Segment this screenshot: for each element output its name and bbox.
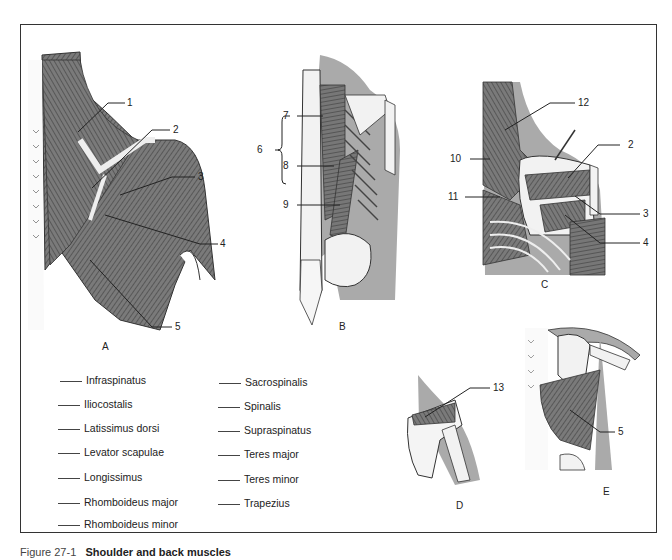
answer-blank[interactable] [58, 525, 80, 526]
term-item: Latissimus dorsi [58, 422, 159, 434]
callout-c-12: 12 [578, 97, 589, 108]
callout-b-9: 9 [283, 199, 289, 210]
caption-title: Shoulder and back muscles [85, 546, 231, 558]
panel-d-illustration [407, 375, 490, 485]
answer-blank[interactable] [58, 453, 80, 454]
callout-b-6: 6 [257, 144, 263, 155]
answer-blank[interactable] [218, 407, 240, 408]
callout-a-1: 1 [127, 97, 133, 108]
panel-label-e: E [603, 486, 610, 497]
term-item: Teres minor [218, 473, 299, 485]
callout-a-4: 4 [220, 238, 226, 249]
answer-blank[interactable] [218, 480, 240, 481]
answer-blank[interactable] [218, 455, 240, 456]
panel-label-b: B [339, 321, 346, 332]
panel-b-illustration [275, 55, 400, 325]
term-item: Supraspinatus [218, 424, 311, 436]
term-item: Longissimus [58, 471, 142, 483]
callout-c-3: 3 [643, 208, 649, 219]
callout-a-2: 2 [173, 124, 179, 135]
term-item: Trapezius [218, 497, 290, 509]
answer-blank[interactable] [218, 431, 240, 432]
answer-blank[interactable] [219, 383, 241, 384]
answer-blank[interactable] [58, 429, 80, 430]
term-item: Levator scapulae [58, 446, 164, 458]
caption-prefix: Figure 27-1 [20, 546, 76, 558]
term-item: Infraspinatus [60, 374, 146, 386]
term-item: Spinalis [218, 400, 281, 412]
figure-caption: Figure 27-1 Shoulder and back muscles [20, 546, 231, 558]
panel-label-d: D [456, 500, 463, 511]
answer-blank[interactable] [218, 504, 240, 505]
answer-blank[interactable] [58, 503, 80, 504]
callout-c-2: 2 [628, 139, 634, 150]
callout-b-8: 8 [283, 160, 289, 171]
callout-a-3: 3 [198, 171, 204, 182]
answer-blank[interactable] [58, 478, 80, 479]
panel-e-illustration [525, 328, 640, 470]
panel-label-c: C [541, 279, 548, 290]
answer-blank[interactable] [58, 405, 80, 406]
term-item: Rhomboideus major [58, 496, 178, 508]
answer-blank[interactable] [60, 381, 82, 382]
callout-a-5: 5 [175, 321, 181, 332]
panel-a-illustration [28, 52, 218, 330]
term-item: Iliocostalis [58, 398, 132, 410]
callout-c-4: 4 [643, 237, 649, 248]
term-item: Teres major [218, 448, 299, 460]
panel-c-illustration [465, 82, 640, 275]
term-item: Rhomboideus minor [58, 518, 178, 530]
callout-b-7: 7 [283, 110, 289, 121]
callout-e-5: 5 [618, 426, 624, 437]
term-item: Sacrospinalis [219, 376, 307, 388]
callout-c-10: 10 [450, 153, 461, 164]
callout-d-13: 13 [493, 382, 504, 393]
callout-c-11: 11 [448, 191, 458, 202]
panel-label-a: A [102, 341, 109, 352]
